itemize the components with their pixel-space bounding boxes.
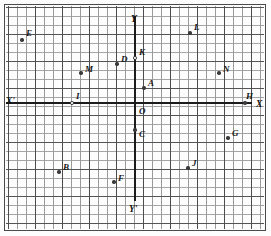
point-marker-e <box>20 38 23 41</box>
point-label-k: K <box>139 48 145 57</box>
point-label-b: B <box>63 163 69 172</box>
point-label-i: I <box>76 92 80 101</box>
point-marker-j <box>186 166 189 169</box>
point-label-l: L <box>194 23 200 32</box>
point-marker-k <box>133 56 137 60</box>
point-label-f: F <box>118 174 124 183</box>
point-label-h: H <box>246 92 253 101</box>
axis-end-label-x-prime: X' <box>6 97 15 107</box>
point-label-e: E <box>26 29 32 38</box>
axis-end-label-y-prime: Y' <box>129 205 137 215</box>
point-label-o: O <box>139 107 146 116</box>
point-marker-h <box>243 101 246 104</box>
point-label-c: C <box>139 130 145 139</box>
axis-end-label-y: Y <box>131 15 137 25</box>
point-marker-c <box>133 128 136 131</box>
point-marker-i <box>70 101 74 105</box>
point-label-j: J <box>192 159 197 168</box>
point-marker-l <box>188 31 191 34</box>
point-marker-b <box>57 170 60 173</box>
axis-end-label-x: X <box>256 100 262 110</box>
point-marker-m <box>79 71 82 74</box>
y-axis-line <box>134 16 136 201</box>
coordinate-plane-figure: ELKDMNAIHOCGJBF YY'X'X <box>0 0 271 236</box>
point-label-m: M <box>85 65 93 74</box>
point-marker-n <box>217 71 220 74</box>
point-marker-f <box>112 180 115 183</box>
point-marker-a <box>142 86 145 89</box>
x-axis-line <box>6 102 252 104</box>
point-label-a: A <box>148 79 154 88</box>
point-label-n: N <box>223 65 230 74</box>
point-marker-g <box>226 136 229 139</box>
point-marker-d <box>115 62 118 65</box>
point-label-g: G <box>232 129 239 138</box>
point-label-d: D <box>121 55 128 64</box>
